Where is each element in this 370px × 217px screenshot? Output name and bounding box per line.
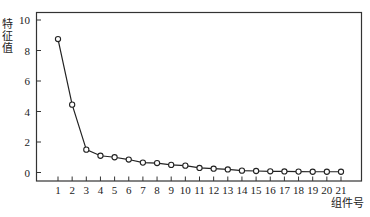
data-point xyxy=(310,169,315,174)
data-point xyxy=(126,157,131,162)
data-point xyxy=(296,169,301,174)
y-tick-label: 6 xyxy=(25,75,31,87)
y-tick-label: 10 xyxy=(19,14,31,26)
y-tick-label: 0 xyxy=(25,167,31,179)
data-point xyxy=(268,169,273,174)
x-tick-label: 17 xyxy=(279,184,291,196)
data-point xyxy=(154,160,159,165)
data-point xyxy=(183,163,188,168)
x-tick-label: 1 xyxy=(55,184,61,196)
x-tick-label: 9 xyxy=(168,184,174,196)
data-point xyxy=(55,36,60,41)
x-axis: 123456789101112131415161718192021 xyxy=(55,177,346,197)
data-point xyxy=(70,102,75,107)
data-point xyxy=(169,162,174,167)
series-line xyxy=(58,39,341,172)
x-tick-label: 18 xyxy=(293,184,305,196)
x-tick-label: 16 xyxy=(265,184,277,196)
data-point xyxy=(324,169,329,174)
data-point xyxy=(211,166,216,171)
data-point xyxy=(112,155,117,160)
x-tick-label: 8 xyxy=(154,184,160,196)
x-tick-label: 21 xyxy=(336,184,347,196)
data-point xyxy=(98,153,103,158)
y-axis-title: 特征值 xyxy=(0,17,14,54)
x-tick-label: 15 xyxy=(251,184,263,196)
data-point xyxy=(239,168,244,173)
x-tick-label: 4 xyxy=(98,184,104,196)
data-point xyxy=(254,168,259,173)
scree-plot: 0246810 12345678910111213141516171819202… xyxy=(0,0,370,217)
x-tick-label: 3 xyxy=(84,184,90,196)
x-tick-label: 12 xyxy=(208,184,219,196)
data-point xyxy=(140,160,145,165)
x-tick-label: 7 xyxy=(140,184,146,196)
x-tick-label: 2 xyxy=(69,184,75,196)
x-tick-label: 19 xyxy=(307,184,319,196)
y-axis: 0246810 xyxy=(19,14,41,179)
y-tick-label: 8 xyxy=(25,45,31,57)
data-point xyxy=(282,169,287,174)
x-tick-label: 11 xyxy=(194,184,205,196)
data-point xyxy=(197,165,202,170)
y-tick-label: 4 xyxy=(25,106,31,118)
x-tick-label: 13 xyxy=(222,184,234,196)
x-tick-label: 6 xyxy=(126,184,132,196)
data-point xyxy=(338,169,343,174)
x-tick-label: 10 xyxy=(180,184,192,196)
x-tick-label: 14 xyxy=(236,184,248,196)
eigenvalue-series xyxy=(55,36,343,174)
y-tick-label: 2 xyxy=(25,136,31,148)
x-axis-title: 组件号 xyxy=(331,196,364,210)
data-point xyxy=(84,147,89,152)
x-tick-label: 5 xyxy=(112,184,118,196)
plot-frame xyxy=(37,13,362,182)
data-point xyxy=(225,167,230,172)
x-tick-label: 20 xyxy=(321,184,333,196)
